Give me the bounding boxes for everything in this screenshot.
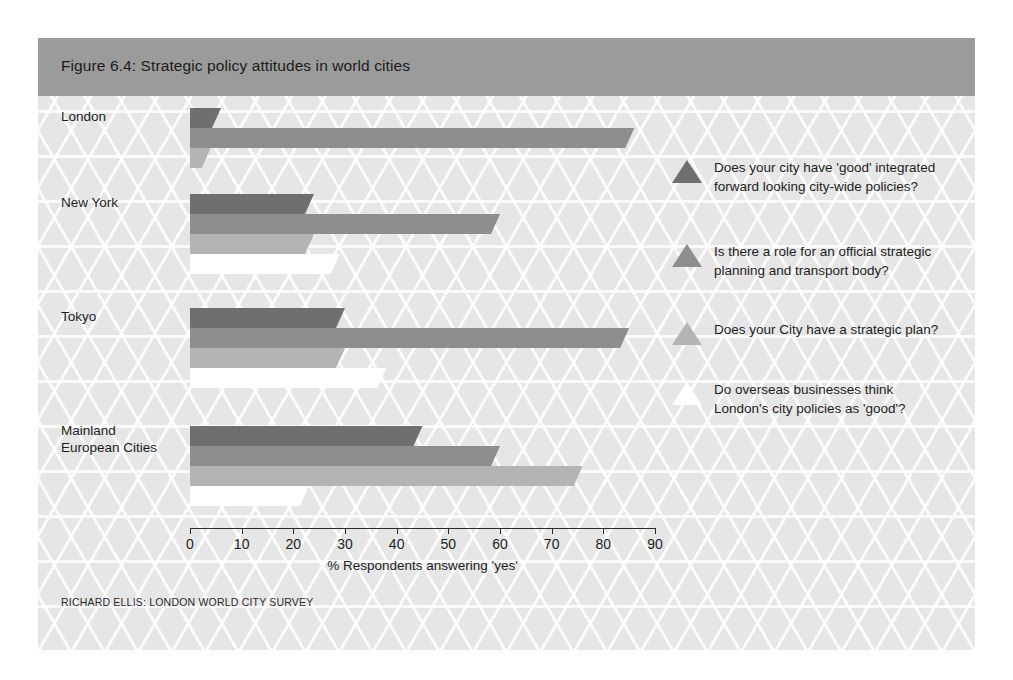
bar-fill bbox=[190, 108, 221, 128]
legend-label-line2: London's city policies as 'good'? bbox=[714, 399, 972, 418]
legend-label-line2: planning and transport body? bbox=[714, 261, 972, 280]
x-axis-line bbox=[190, 528, 655, 529]
legend-label-line1: Do overseas businesses think bbox=[714, 380, 972, 399]
x-axis-tick bbox=[655, 528, 656, 534]
x-axis-tick bbox=[293, 528, 294, 534]
bar-fill bbox=[190, 128, 634, 148]
legend-label-line1: Does your City have a strategic plan? bbox=[714, 320, 972, 339]
category-label: London bbox=[61, 108, 191, 125]
triangle-marker-icon bbox=[672, 160, 702, 183]
bar-fill bbox=[190, 234, 314, 254]
x-axis-tick bbox=[500, 528, 501, 534]
legend-label: Does your City have a strategic plan? bbox=[714, 320, 972, 339]
x-axis-tick bbox=[242, 528, 243, 534]
triangle-marker-icon bbox=[672, 244, 702, 267]
bar-fill bbox=[190, 148, 211, 168]
x-axis-tick-label: 60 bbox=[480, 536, 520, 552]
x-axis-tick-label: 10 bbox=[222, 536, 262, 552]
x-axis-tick bbox=[603, 528, 604, 534]
bar-fill bbox=[190, 466, 583, 486]
bar-fill bbox=[190, 368, 386, 388]
legend-label-line1: Does your city have 'good' integrated bbox=[714, 158, 972, 177]
legend-label: Does your city have 'good' integratedfor… bbox=[714, 158, 972, 196]
x-axis-tick bbox=[345, 528, 346, 534]
x-axis-tick-label: 70 bbox=[532, 536, 572, 552]
bar-fill bbox=[190, 214, 500, 234]
x-axis-tick-label: 20 bbox=[273, 536, 313, 552]
source-credit: RICHARD ELLIS: LONDON WORLD CITY SURVEY bbox=[61, 596, 313, 608]
x-axis-tick bbox=[397, 528, 398, 534]
bar-fill bbox=[190, 426, 423, 446]
bar-fill bbox=[190, 328, 629, 348]
legend-label-line1: Is there a role for an official strategi… bbox=[714, 242, 972, 261]
figure-container: Figure 6.4: Strategic policy attitudes i… bbox=[38, 38, 975, 650]
triangle-marker-icon bbox=[672, 322, 702, 345]
x-axis-tick-label: 90 bbox=[635, 536, 675, 552]
legend-label: Do overseas businesses thinkLondon's cit… bbox=[714, 380, 972, 418]
category-label: MainlandEuropean Cities bbox=[61, 422, 191, 456]
bar-fill bbox=[190, 308, 345, 328]
bar-fill bbox=[190, 446, 500, 466]
bar-fill bbox=[190, 254, 340, 274]
category-label: New York bbox=[61, 194, 191, 211]
legend-label: Is there a role for an official strategi… bbox=[714, 242, 972, 280]
x-axis-tick bbox=[448, 528, 449, 534]
x-axis-tick-label: 0 bbox=[170, 536, 210, 552]
figure-title-band: Figure 6.4: Strategic policy attitudes i… bbox=[38, 38, 975, 96]
bar-fill bbox=[190, 194, 314, 214]
x-axis-tick-label: 50 bbox=[428, 536, 468, 552]
x-axis-tick bbox=[552, 528, 553, 534]
x-axis-title: % Respondents answering 'yes' bbox=[190, 558, 655, 573]
chart-plot-area: LondonNew YorkTokyoMainlandEuropean Citi… bbox=[38, 96, 975, 650]
figure-title: Figure 6.4: Strategic policy attitudes i… bbox=[61, 57, 410, 75]
legend-label-line2: forward looking city-wide policies? bbox=[714, 177, 972, 196]
bar-fill bbox=[190, 486, 309, 506]
bar-fill bbox=[190, 348, 345, 368]
x-axis-tick-label: 80 bbox=[583, 536, 623, 552]
x-axis-tick-label: 30 bbox=[325, 536, 365, 552]
category-label: Tokyo bbox=[61, 308, 191, 325]
x-axis: % Respondents answering 'yes' 0102030405… bbox=[190, 528, 660, 588]
triangle-marker-icon bbox=[672, 382, 702, 405]
x-axis-tick-label: 40 bbox=[377, 536, 417, 552]
category-label-line2: European Cities bbox=[61, 439, 191, 456]
x-axis-tick bbox=[190, 528, 191, 534]
